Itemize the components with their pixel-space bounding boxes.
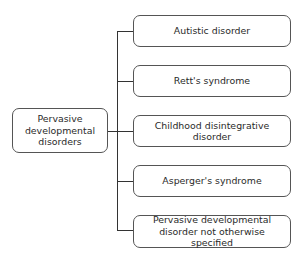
root-node: Pervasive developmental disorders (12, 108, 108, 153)
child-node-label: Autistic disorder (174, 25, 250, 37)
child-node-pdd-nos: Pervasive developmental disorder not oth… (133, 215, 291, 248)
branch-connector-5 (117, 230, 133, 231)
root-connector (108, 131, 117, 132)
child-node-autistic-disorder: Autistic disorder (133, 15, 291, 47)
child-node-label: Pervasive developmental disorder not oth… (138, 214, 286, 249)
child-node-label: Asperger's syndrome (162, 175, 261, 187)
child-node-aspergers-syndrome: Asperger's syndrome (133, 165, 291, 197)
branch-connector-3 (117, 131, 133, 132)
child-node-childhood-disintegrative-disorder: Childhood disintegrative disorder (133, 115, 291, 147)
root-node-label: Pervasive developmental disorders (25, 113, 95, 148)
branch-connector-2 (117, 81, 133, 82)
branch-connector-4 (117, 181, 133, 182)
child-node-label: Childhood disintegrative disorder (155, 120, 270, 143)
child-node-retts-syndrome: Rett's syndrome (133, 65, 291, 97)
child-node-label: Rett's syndrome (174, 75, 250, 87)
branch-connector-1 (117, 31, 133, 32)
